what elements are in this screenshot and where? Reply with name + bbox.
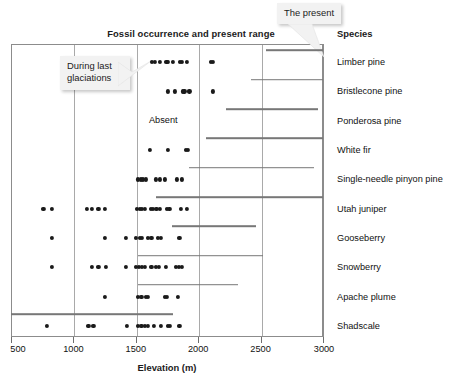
x-tick-label-500: 500: [10, 344, 25, 354]
x-tick-label-2500: 2500: [250, 344, 270, 354]
callout-the-present-tail: [286, 24, 332, 58]
present-range-line: [156, 196, 323, 198]
present-range-line: [266, 50, 323, 52]
x-tick-label-1000: 1000: [63, 344, 83, 354]
species-label: Bristlecone pine: [337, 86, 402, 96]
x-axis-title: Elevation (m): [11, 362, 323, 373]
callout-during-last-glaciations-tail: [118, 60, 152, 90]
chart-figure: Fossil occurrence and present range Spec…: [0, 0, 458, 381]
present-range-line: [138, 284, 238, 286]
x-tick-label-2000: 2000: [188, 344, 208, 354]
plot-area: [11, 44, 323, 337]
chart-title: Fossil occurrence and present range: [86, 28, 296, 39]
species-label: Ponderosa pine: [337, 116, 401, 126]
x-tick-2000: [198, 337, 199, 343]
species-label: Utah juniper: [337, 204, 387, 214]
callout-the-present: The present: [277, 3, 341, 24]
species-column-title: Species: [337, 28, 372, 39]
species-separator: [323, 44, 324, 337]
present-range-line: [172, 225, 256, 227]
gridline-2000: [199, 45, 200, 336]
present-range-line: [251, 79, 323, 81]
x-tick-1000: [73, 337, 74, 343]
species-label: Snowberry: [337, 262, 381, 272]
x-tick-3000: [323, 337, 324, 343]
absent-label: Absent: [149, 115, 178, 125]
present-range-line: [11, 313, 173, 315]
species-label: Limber pine: [337, 57, 385, 67]
species-label: Single-needle pinyon pine: [337, 174, 443, 184]
x-tick-1500: [136, 337, 137, 343]
present-range-line: [138, 255, 263, 257]
x-tick-label-1500: 1500: [126, 344, 146, 354]
species-label: Gooseberry: [337, 233, 385, 243]
species-label: Apache plume: [337, 292, 396, 302]
gridline-2500: [262, 45, 263, 336]
present-range-line: [226, 108, 318, 110]
species-label: Shadscale: [337, 321, 380, 331]
species-label: White fir: [337, 145, 371, 155]
x-tick-label-3000: 3000: [314, 344, 334, 354]
present-range-line: [189, 167, 314, 169]
present-range-line: [206, 138, 323, 140]
x-tick-2500: [261, 337, 262, 343]
x-tick-500: [11, 337, 12, 343]
